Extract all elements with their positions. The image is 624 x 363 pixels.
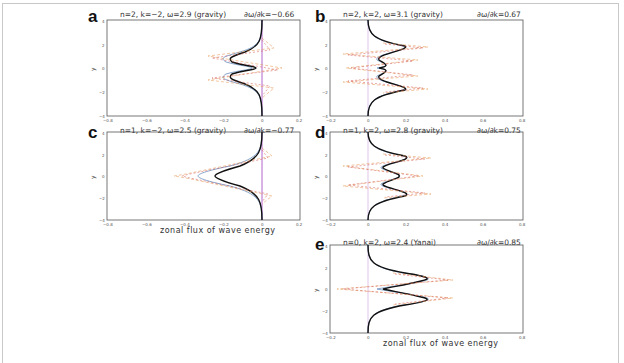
svg-text:y: y: [90, 175, 97, 179]
svg-text:0: 0: [325, 287, 328, 292]
svg-text:0.8: 0.8: [519, 335, 526, 340]
svg-text:−0.8: −0.8: [103, 118, 113, 123]
svg-text:4: 4: [325, 244, 328, 249]
svg-text:y: y: [313, 175, 320, 179]
svg-text:0.8: 0.8: [519, 222, 526, 227]
svg-text:−2: −2: [322, 90, 328, 95]
svg-text:0.2: 0.2: [296, 222, 303, 227]
svg-text:−0.6: −0.6: [142, 118, 152, 123]
svg-text:2: 2: [325, 266, 328, 271]
svg-text:0.6: 0.6: [480, 118, 487, 123]
svg-text:−2: −2: [99, 196, 105, 201]
svg-text:0: 0: [367, 222, 370, 227]
svg-text:0.4: 0.4: [442, 222, 449, 227]
svg-text:−2: −2: [322, 196, 328, 201]
svg-text:0.2: 0.2: [403, 118, 410, 123]
svg-text:4: 4: [325, 131, 328, 136]
svg-text:−0.2: −0.2: [326, 118, 336, 123]
svg-text:2: 2: [325, 153, 328, 158]
x-axis-label: zonal flux of wave energy: [383, 339, 499, 348]
svg-text:y: y: [90, 67, 97, 71]
svg-text:0.6: 0.6: [480, 222, 487, 227]
x-axis-label: zonal flux of wave energy: [160, 226, 276, 235]
plot-d: 420−2−4 −0.200.20.40.60.8 y: [313, 130, 533, 228]
plot-e: 420−2−4 −0.200.20.40.60.8 y: [313, 243, 533, 341]
svg-text:−0.8: −0.8: [103, 222, 113, 227]
svg-text:−0.4: −0.4: [180, 118, 190, 123]
svg-text:4: 4: [102, 19, 105, 24]
svg-text:−0.2: −0.2: [326, 222, 336, 227]
svg-text:y: y: [313, 288, 320, 292]
svg-text:2: 2: [102, 153, 105, 158]
svg-text:0.4: 0.4: [442, 118, 449, 123]
svg-text:0.2: 0.2: [403, 222, 410, 227]
svg-text:2: 2: [102, 43, 105, 48]
svg-text:0: 0: [102, 66, 105, 71]
svg-text:y: y: [313, 67, 320, 71]
svg-text:4: 4: [102, 131, 105, 136]
svg-text:−0.2: −0.2: [326, 335, 336, 340]
svg-text:0: 0: [325, 66, 328, 71]
svg-text:−0.6: −0.6: [142, 222, 152, 227]
svg-text:0: 0: [102, 174, 105, 179]
svg-text:0: 0: [325, 174, 328, 179]
svg-text:−2: −2: [99, 90, 105, 95]
svg-text:0: 0: [367, 118, 370, 123]
svg-text:0: 0: [367, 335, 370, 340]
svg-text:−2: −2: [322, 309, 328, 314]
svg-text:0.8: 0.8: [519, 118, 526, 123]
svg-text:2: 2: [325, 43, 328, 48]
svg-text:0: 0: [261, 118, 264, 123]
svg-text:0.2: 0.2: [296, 118, 303, 123]
plot-c: 420−2−4 −0.8−0.6−0.4−0.200.2 y: [90, 130, 310, 228]
plot-a: 420−2−4 −0.8−0.6−0.4−0.200.2 y: [90, 18, 310, 126]
plot-b: 420−2−4 −0.200.20.40.60.8 y: [313, 18, 533, 126]
svg-text:−0.2: −0.2: [219, 118, 229, 123]
svg-text:4: 4: [325, 19, 328, 24]
